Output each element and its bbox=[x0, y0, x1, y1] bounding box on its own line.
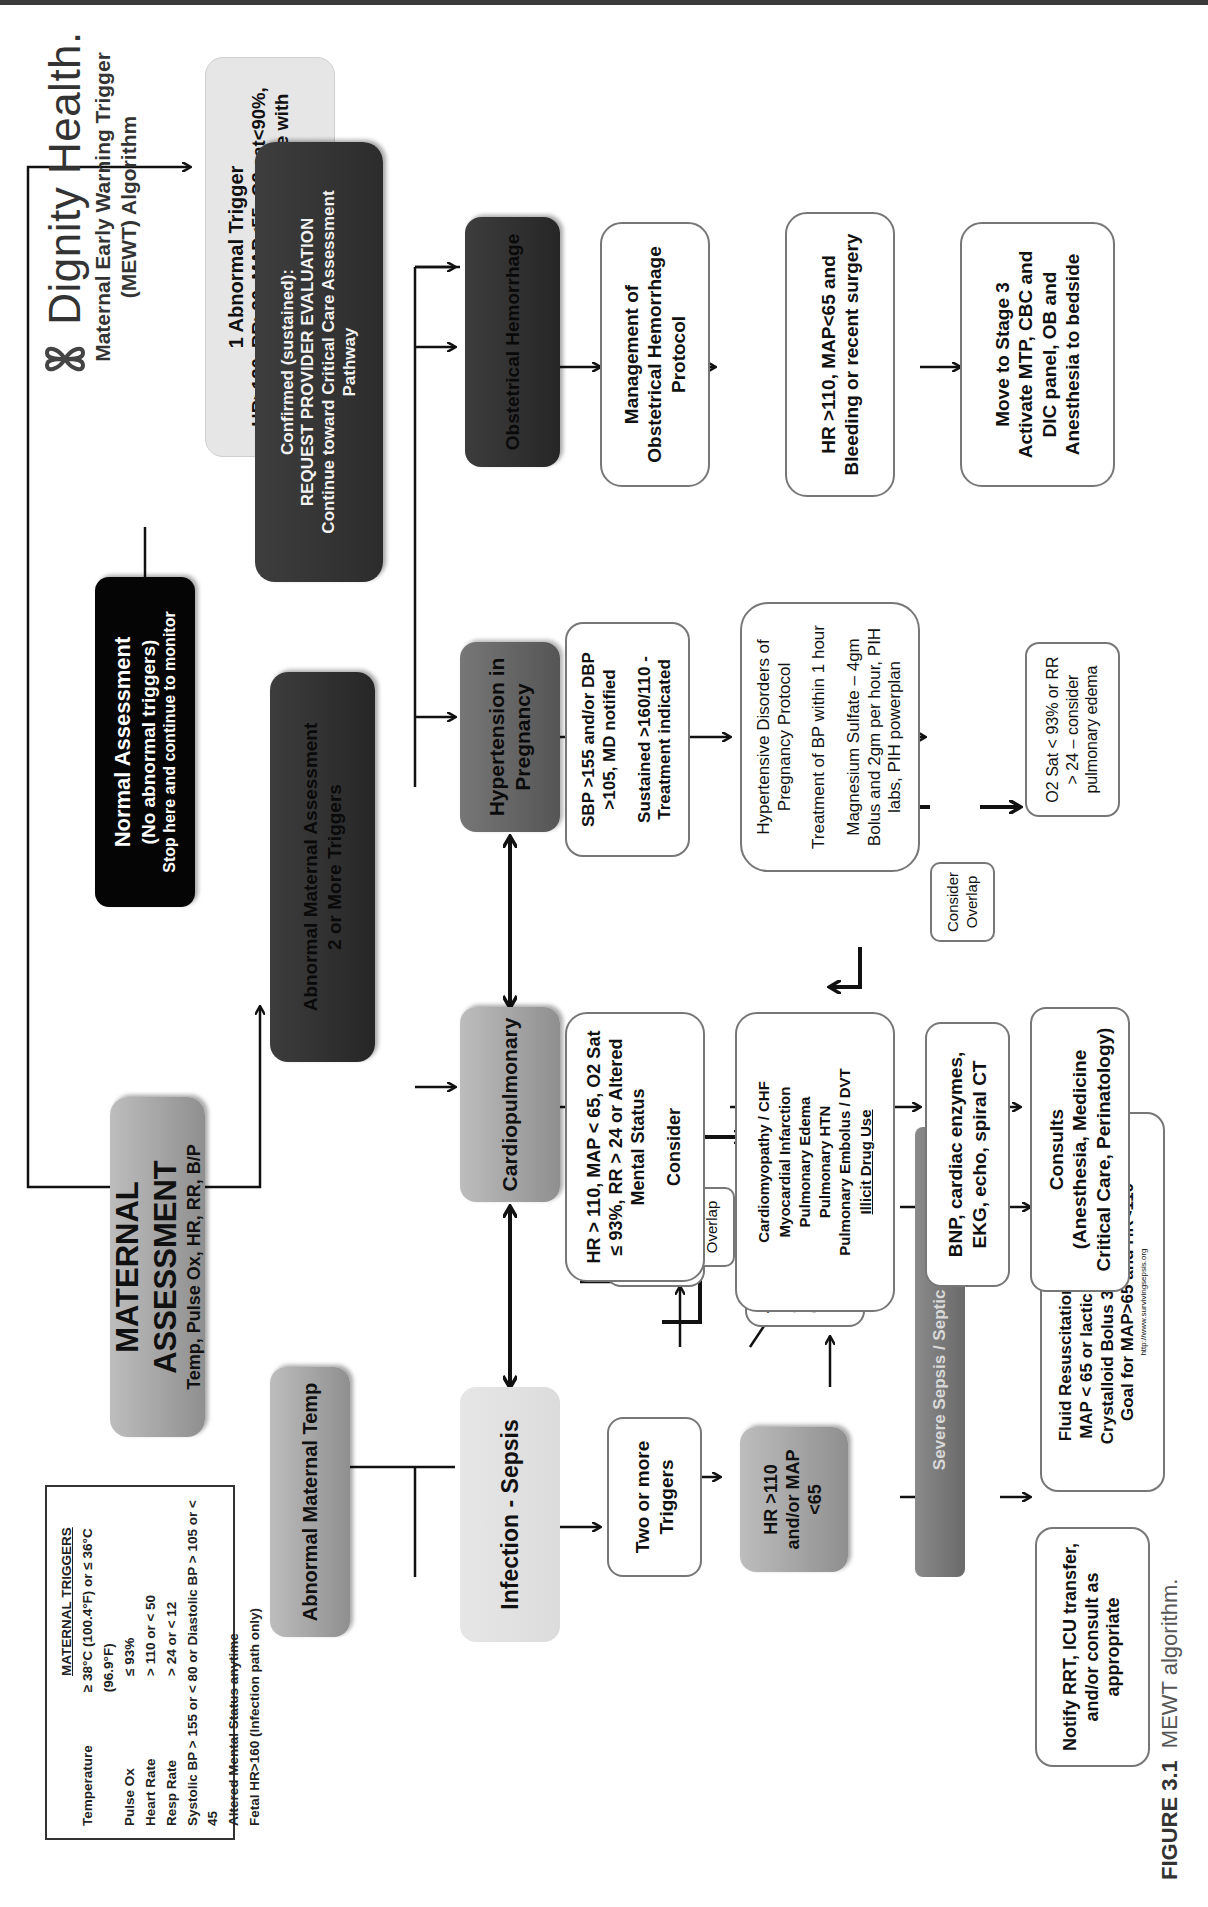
node-cardio-conditions: Cardiomyopathy / CHF Myocardial Infarcti… bbox=[735, 1012, 895, 1312]
trigger-extra-line: Altered Mental Status anytime bbox=[224, 1499, 245, 1826]
node-htn-protocol: Hypertensive Disorders of Pregnancy Prot… bbox=[740, 602, 920, 872]
brand-header: Dignity Health. Maternal Early Warning T… bbox=[40, 0, 143, 417]
trigger-extra-line: Systolic BP > 155 or < 80 or Diastolic B… bbox=[183, 1499, 225, 1826]
algorithm-title-line2: (MEWT) Algorithm bbox=[116, 0, 142, 417]
node-obstetrical-hemorrhage: Obstetrical Hemorrhage bbox=[465, 217, 560, 467]
node-consider-overlap-2: Consider Overlap bbox=[930, 862, 995, 942]
trigger-row: Temperature≥ 38°C (100.4°F) or ≤ 36°C (9… bbox=[78, 1499, 120, 1826]
reference-link[interactable]: http://www.survivingsepsis.org bbox=[1139, 1248, 1149, 1355]
node-abnormal-maternal-temp: Abnormal Maternal Temp bbox=[270, 1367, 350, 1637]
node-hr110-map65: HR >110 and/or MAP <65 bbox=[740, 1427, 848, 1572]
node-ob-criteria: HR >110, MAP<65 and Bleeding or recent s… bbox=[785, 212, 895, 497]
trigger-extra-line: Fetal HR>160 (Infection path only) bbox=[245, 1499, 266, 1826]
triggers-title: MATERNAL TRIGGERS bbox=[57, 1499, 78, 1826]
trigger-row: Heart Rate> 110 or < 50 bbox=[141, 1499, 162, 1826]
node-confirmed-request-evaluation: Confirmed (sustained): REQUEST PROVIDER … bbox=[255, 142, 383, 582]
node-infection-sepsis: Infection - Sepsis bbox=[460, 1387, 560, 1642]
figure-caption: FIGURE 3.1 MEWT algorithm. bbox=[1150, 1280, 1190, 1880]
node-ob-protocol: Management of Obstetrical Hemorrhage Pro… bbox=[600, 222, 710, 487]
node-consults: Consults (Anesthesia, Medicine Critical … bbox=[1030, 1007, 1130, 1292]
figure-number: FIGURE 3.1 bbox=[1157, 1760, 1183, 1880]
mewt-flowchart: Dignity Health. Maternal Early Warning T… bbox=[0, 0, 1208, 1907]
node-o2-sat-pulmonary-edema: O2 Sat < 93% or RR > 24 – consider pulmo… bbox=[1025, 642, 1120, 817]
node-move-to-stage3: Move to Stage 3 Activate MTP, CBC and DI… bbox=[960, 222, 1115, 487]
node-maternal-assessment: MATERNAL ASSESSMENT Temp, Pulse Ox, HR, … bbox=[110, 1097, 205, 1437]
node-abnormal-2plus-triggers: Abnormal Maternal Assessment 2 or More T… bbox=[270, 672, 375, 1062]
figure-caption-text: MEWT algorithm. bbox=[1157, 1579, 1183, 1749]
maternal-triggers-legend: MATERNAL TRIGGERS Temperature≥ 38°C (100… bbox=[45, 1485, 235, 1840]
node-normal-assessment: Normal Assessment (No abnormal triggers)… bbox=[95, 577, 195, 907]
algorithm-title-line1: Maternal Early Warning Trigger bbox=[90, 0, 116, 417]
node-notify-rrt: Notify RRT, ICU transfer, and/or consult… bbox=[1035, 1527, 1150, 1767]
node-htn-criteria: SBP >155 and/or DBP >105, MD notified Su… bbox=[565, 622, 690, 857]
dignity-health-logo-icon bbox=[41, 335, 89, 383]
node-two-or-more-triggers: Two or more Triggers bbox=[607, 1417, 702, 1577]
brand-name: Dignity Health. bbox=[40, 31, 90, 325]
node-cardiopulmonary-triggers: HR > 110, MAP < 65, O2 Sat ≤ 93%, RR > 2… bbox=[565, 1012, 705, 1282]
trigger-row: Resp Rate> 24 or < 12 bbox=[162, 1499, 183, 1826]
node-cardiopulmonary: Cardiopulmonary bbox=[460, 1007, 560, 1202]
node-hypertension-in-pregnancy: Hypertension in Pregnancy bbox=[460, 642, 560, 832]
trigger-row: Pulse Ox≤ 93% bbox=[120, 1499, 141, 1826]
node-cardio-tests: BNP, cardiac enzymes, EKG, echo, spiral … bbox=[925, 1022, 1010, 1287]
